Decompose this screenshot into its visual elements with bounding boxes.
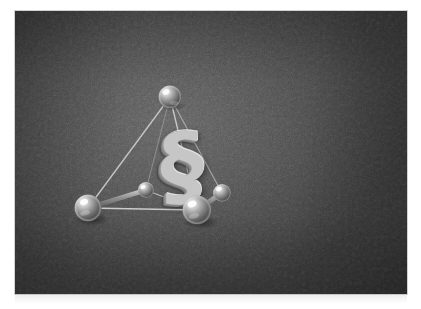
molecule-spheres-svg bbox=[15, 11, 407, 294]
atom-top bbox=[159, 86, 182, 109]
atom-center-small bbox=[138, 182, 154, 198]
photo-bottom-reflection bbox=[15, 294, 407, 304]
atom-group bbox=[75, 86, 232, 225]
atom-right bbox=[183, 196, 212, 225]
atom-left bbox=[75, 195, 102, 222]
molecule-scene: § bbox=[15, 11, 407, 294]
page-root: § bbox=[0, 0, 421, 309]
atom-satellite bbox=[213, 184, 231, 202]
photo-image: § bbox=[15, 11, 407, 294]
